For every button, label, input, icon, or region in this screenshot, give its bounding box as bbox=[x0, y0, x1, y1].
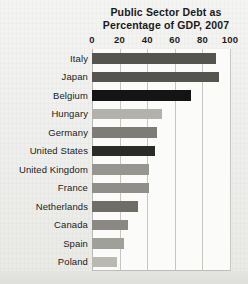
bar-rows: ItalyJapanBelgiumHungaryGermanyUnited St… bbox=[0, 49, 248, 271]
bar-row: Spain bbox=[0, 234, 248, 253]
bar bbox=[92, 257, 117, 268]
bar-track bbox=[92, 123, 230, 142]
x-axis-tick-0: 0 bbox=[89, 34, 94, 45]
bar bbox=[92, 72, 219, 83]
bar bbox=[92, 220, 128, 231]
bar bbox=[92, 109, 162, 120]
x-axis-tick-20: 20 bbox=[114, 34, 125, 45]
bar-track bbox=[92, 68, 230, 87]
bar bbox=[92, 127, 157, 138]
chart-title-line-1: Public Sector Debt as bbox=[86, 6, 246, 19]
x-axis-tick-80: 80 bbox=[197, 34, 208, 45]
bar-category-label: Japan bbox=[0, 71, 92, 82]
bar-category-label: Spain bbox=[0, 238, 92, 249]
x-axis-tick-labels: 020406080100 bbox=[0, 34, 248, 47]
bar-row: Netherlands bbox=[0, 197, 248, 216]
bar-track bbox=[92, 253, 230, 272]
bar-row: Belgium bbox=[0, 86, 248, 105]
bar-category-label: Italy bbox=[0, 53, 92, 64]
x-axis-tick-100: 100 bbox=[222, 34, 238, 45]
bar bbox=[92, 146, 155, 157]
bar-track bbox=[92, 160, 230, 179]
bar-row: Poland bbox=[0, 253, 248, 272]
bar-category-label: Hungary bbox=[0, 108, 92, 119]
bar-row: Germany bbox=[0, 123, 248, 142]
x-axis-tick-40: 40 bbox=[142, 34, 153, 45]
page-bottom-band bbox=[0, 271, 248, 284]
bar-row: Hungary bbox=[0, 105, 248, 124]
bar-category-label: Netherlands bbox=[0, 201, 92, 212]
bar-track bbox=[92, 142, 230, 161]
bar bbox=[92, 201, 138, 212]
bar-track bbox=[92, 86, 230, 105]
bar-category-label: France bbox=[0, 182, 92, 193]
bar bbox=[92, 90, 191, 101]
bar-track bbox=[92, 197, 230, 216]
chart-title: Public Sector Debt as Percentage of GDP,… bbox=[86, 6, 246, 31]
bar-category-label: Germany bbox=[0, 127, 92, 138]
bar-category-label: United States bbox=[0, 145, 92, 156]
bar-row: United Kingdom bbox=[0, 160, 248, 179]
bar-track bbox=[92, 105, 230, 124]
bar bbox=[92, 164, 149, 175]
bar-row: Italy bbox=[0, 49, 248, 68]
bar-category-label: Poland bbox=[0, 256, 92, 267]
bar-chart-figure: Public Sector Debt as Percentage of GDP,… bbox=[0, 0, 248, 284]
bar bbox=[92, 183, 149, 194]
bar-category-label: Canada bbox=[0, 219, 92, 230]
x-axis-tick-60: 60 bbox=[169, 34, 180, 45]
bar-row: France bbox=[0, 179, 248, 198]
bar-track bbox=[92, 216, 230, 235]
bar-category-label: Belgium bbox=[0, 90, 92, 101]
bar-track bbox=[92, 179, 230, 198]
bar-row: Japan bbox=[0, 68, 248, 87]
bar-row: United States bbox=[0, 142, 248, 161]
chart-title-line-2: Percentage of GDP, 2007 bbox=[86, 19, 246, 32]
bar-row: Canada bbox=[0, 216, 248, 235]
bar-track bbox=[92, 49, 230, 68]
bar-category-label: United Kingdom bbox=[0, 164, 92, 175]
bar-track bbox=[92, 234, 230, 253]
bar bbox=[92, 53, 216, 64]
bar bbox=[92, 238, 124, 249]
